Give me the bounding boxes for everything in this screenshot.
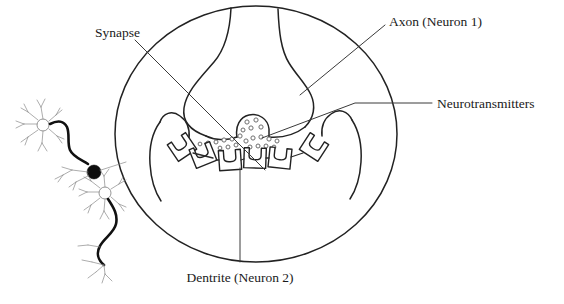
receptor (299, 133, 328, 162)
label-dendrite: Dentrite (Neuron 2) (186, 270, 293, 285)
receptors (167, 133, 328, 171)
magnified-synapse-circle (115, 6, 397, 262)
label-synapse: Synapse (95, 25, 140, 40)
receptor (244, 148, 267, 169)
inset-neuron-2 (55, 162, 126, 283)
figure-root: Synapse Axon (Neuron 1) Neurotransmitter… (0, 0, 564, 304)
synaptic-vesicle (237, 115, 269, 137)
inset-neuron-1 (16, 99, 88, 164)
label-neurotransmitters: Neurotransmitters (437, 96, 534, 111)
leader-neurotransmitters (262, 103, 432, 138)
axon-terminal (184, 8, 314, 140)
synapse-diagram: Synapse Axon (Neuron 1) Neurotransmitter… (0, 0, 564, 304)
two-neuron-inset (16, 99, 126, 283)
leader-axon (300, 25, 385, 95)
receptor (218, 149, 241, 170)
leader-synapse (135, 40, 265, 170)
leader-lines (135, 25, 432, 262)
receptor (268, 147, 292, 169)
label-axon: Axon (Neuron 1) (389, 14, 482, 29)
